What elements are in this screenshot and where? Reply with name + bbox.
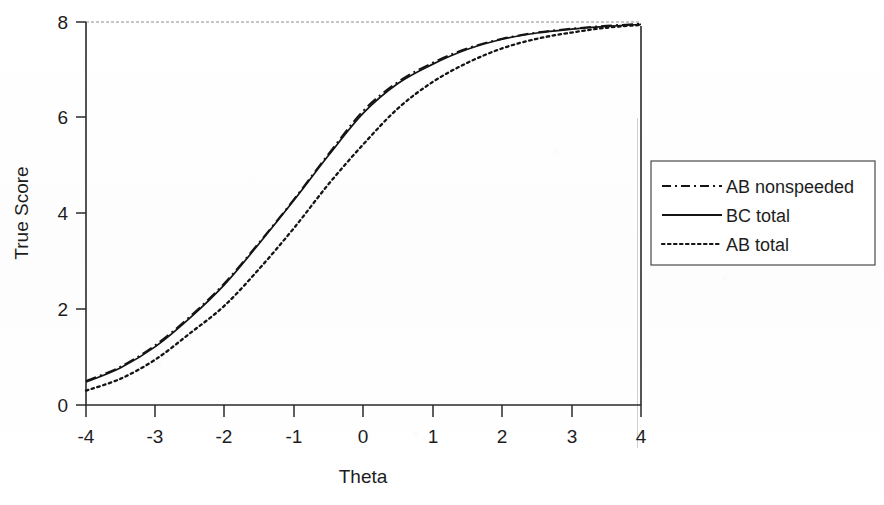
chart-svg: 8 6 4 2 0 -4 -3 -2 -1 0 1 2 3 bbox=[0, 0, 884, 505]
curve-bc-total bbox=[86, 24, 641, 382]
x-tick-label: 4 bbox=[636, 426, 647, 447]
legend: AB nonspeeded BC total AB total bbox=[651, 161, 875, 265]
y-tick-label: 0 bbox=[57, 395, 68, 416]
true-score-chart: 8 6 4 2 0 -4 -3 -2 -1 0 1 2 3 bbox=[0, 0, 884, 505]
legend-label-bc-total: BC total bbox=[726, 206, 790, 226]
curve-ab-nonspeeded bbox=[86, 24, 641, 381]
x-axis-title: Theta bbox=[339, 466, 388, 487]
x-tick-label: -2 bbox=[216, 426, 233, 447]
x-tick-label: 0 bbox=[358, 426, 369, 447]
y-tick-label: 8 bbox=[57, 12, 68, 33]
y-tick-label: 6 bbox=[57, 107, 68, 128]
data-curves bbox=[86, 24, 641, 391]
y-tick-marks bbox=[76, 22, 86, 405]
x-tick-label: 1 bbox=[428, 426, 439, 447]
x-tick-label: -4 bbox=[78, 426, 95, 447]
x-tick-label: -1 bbox=[286, 426, 303, 447]
y-tick-labels: 8 6 4 2 0 bbox=[57, 12, 68, 416]
x-tick-marks bbox=[86, 405, 641, 417]
y-tick-label: 2 bbox=[57, 299, 68, 320]
x-tick-label: 2 bbox=[497, 426, 508, 447]
x-tick-labels: -4 -3 -2 -1 0 1 2 3 4 bbox=[78, 426, 647, 447]
y-axis-title: True Score bbox=[11, 166, 32, 259]
plot-axes bbox=[86, 22, 641, 405]
x-tick-label: -3 bbox=[147, 426, 164, 447]
legend-label-ab-total: AB total bbox=[726, 235, 789, 255]
x-tick-label: 3 bbox=[567, 426, 578, 447]
legend-label-ab-nonspeeded: AB nonspeeded bbox=[726, 177, 854, 197]
y-tick-label: 4 bbox=[57, 203, 68, 224]
